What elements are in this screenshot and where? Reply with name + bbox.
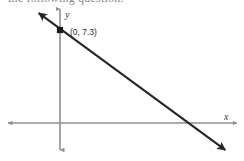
y-axis-label: y (64, 9, 70, 20)
graph-figure: the following question. (0, 0, 244, 161)
x-axis-label: x (223, 111, 229, 122)
plotted-line (39, 13, 225, 150)
y-intercept-point-marker (57, 27, 63, 33)
point-label: (0, 7.3) (70, 27, 97, 37)
coordinate-plane-svg: (0, 7.3) y x (0, 0, 244, 161)
